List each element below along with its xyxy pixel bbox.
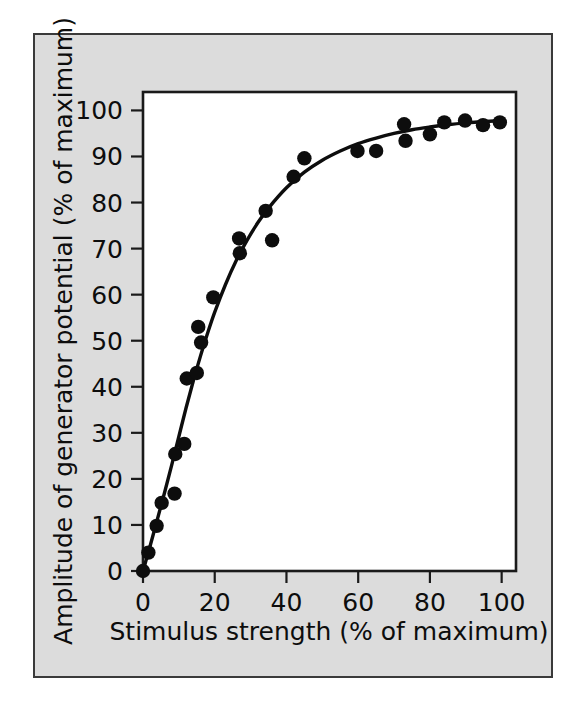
x-tick-label: 80 — [414, 588, 446, 617]
data-point — [265, 233, 279, 247]
y-tick-label: 80 — [91, 189, 123, 218]
data-point — [258, 204, 272, 218]
data-point — [177, 437, 191, 451]
data-point — [167, 486, 181, 500]
data-point — [149, 519, 163, 533]
y-tick-label: 0 — [107, 557, 123, 586]
y-tick-label: 40 — [91, 373, 123, 402]
y-axis-tick-labels: 0102030405060708090100 — [75, 96, 123, 586]
x-tick-label: 40 — [271, 588, 303, 617]
data-point — [398, 134, 412, 148]
y-tick-label: 60 — [91, 281, 123, 310]
data-point — [437, 115, 451, 129]
data-point — [191, 320, 205, 334]
y-tick-label: 70 — [91, 235, 123, 264]
data-point — [476, 118, 490, 132]
x-tick-label: 100 — [478, 588, 526, 617]
data-point — [423, 127, 437, 141]
scatter-plot: 0102030405060708090100 020406080100 Stim… — [0, 0, 588, 723]
y-tick-label: 50 — [91, 327, 123, 356]
y-tick-label: 100 — [75, 96, 123, 125]
figure-root: 0102030405060708090100 020406080100 Stim… — [0, 0, 588, 723]
data-point — [136, 564, 150, 578]
y-tick-label: 90 — [91, 142, 123, 171]
x-axis-ticks — [143, 571, 502, 583]
x-tick-label: 0 — [135, 588, 151, 617]
data-point — [297, 151, 311, 165]
data-point — [350, 144, 364, 158]
data-point — [233, 246, 247, 260]
data-point — [458, 113, 472, 127]
y-axis-title: Amplitude of generator potential (% of m… — [49, 17, 78, 645]
data-point — [397, 117, 411, 131]
data-point — [141, 545, 155, 559]
data-point — [286, 170, 300, 184]
x-axis-tick-labels: 020406080100 — [135, 588, 525, 617]
data-point — [369, 144, 383, 158]
data-point — [232, 231, 246, 245]
data-point — [194, 335, 208, 349]
x-tick-label: 60 — [342, 588, 374, 617]
x-tick-label: 20 — [199, 588, 231, 617]
data-point — [154, 496, 168, 510]
y-tick-label: 10 — [91, 511, 123, 540]
data-point — [190, 366, 204, 380]
x-axis-title: Stimulus strength (% of maximum) — [109, 617, 548, 646]
data-point — [206, 290, 220, 304]
y-tick-label: 20 — [91, 465, 123, 494]
y-tick-label: 30 — [91, 419, 123, 448]
y-axis-ticks — [131, 110, 143, 571]
data-point — [493, 115, 507, 129]
